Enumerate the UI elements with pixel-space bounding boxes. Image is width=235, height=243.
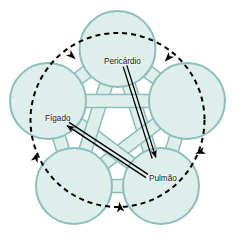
node-circle-left[interactable]: [10, 63, 86, 139]
label-figado: Fígado: [45, 114, 71, 123]
label-pericardio: Pericárdio: [104, 57, 141, 66]
five-element-cycle-diagram: PericárdioFígadoPulmão: [0, 0, 235, 243]
node-circle-right[interactable]: [149, 63, 225, 139]
node-circle-bottom-right[interactable]: [123, 148, 199, 224]
dashed-arrow-top-left: [66, 50, 78, 62]
band-star-left: [80, 95, 155, 108]
diagram-canvas: PericárdioFígadoPulmão: [0, 0, 235, 243]
dashed-arrow-top-right: [162, 52, 174, 64]
node-circle-top[interactable]: [80, 11, 156, 87]
label-pulmao: Pulmão: [149, 174, 177, 183]
node-circle-bottom-left[interactable]: [36, 148, 112, 224]
